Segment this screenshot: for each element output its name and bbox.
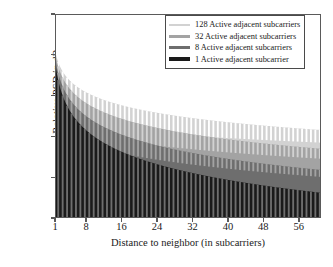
legend-item: 32 Active adjacent subcarriers [169, 31, 300, 43]
legend-label: 1 Active adjacent subcarrier [195, 54, 289, 65]
x-tick-label: 48 [248, 221, 278, 232]
x-tick-mark [227, 218, 228, 222]
legend-item: 128 Active adjacent subcarriers [169, 19, 300, 31]
x-tick-label: 56 [284, 221, 314, 232]
chart-root: Relative PSD in dB 0−10−20−30−40−50 1816… [0, 0, 333, 267]
legend-item: 8 Active adjacent subcarriers [169, 42, 300, 54]
x-tick-mark [156, 218, 157, 222]
x-tick-label: 24 [142, 221, 172, 232]
legend-label: 128 Active adjacent subcarriers [195, 19, 300, 30]
x-tick-label: 16 [107, 221, 137, 232]
legend-label: 8 Active adjacent subcarriers [195, 42, 292, 53]
x-tick-mark [298, 218, 299, 222]
x-tick-label: 1 [40, 221, 70, 232]
legend-color-swatch [169, 57, 190, 61]
legend-color-swatch [169, 35, 190, 38]
legend-color-swatch [169, 46, 190, 49]
x-tick-mark [263, 218, 264, 222]
x-tick-mark [192, 218, 193, 222]
x-axis-label: Distance to neighbor (in subcarriers) [55, 237, 321, 248]
x-tick-mark [54, 218, 55, 222]
x-tick-mark [85, 218, 86, 222]
legend-color-swatch [169, 24, 190, 26]
x-tick-mark [121, 218, 122, 222]
legend-item: 1 Active adjacent subcarrier [169, 54, 300, 66]
x-tick-label: 8 [71, 221, 101, 232]
legend-label: 32 Active adjacent subcarriers [195, 31, 296, 42]
legend: 128 Active adjacent subcarriers32 Active… [165, 15, 305, 69]
x-tick-label: 32 [177, 221, 207, 232]
x-tick-label: 40 [213, 221, 243, 232]
